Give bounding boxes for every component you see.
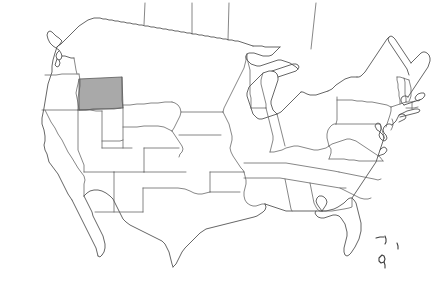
us-outline-map-figure — [0, 0, 441, 298]
us-map-svg — [0, 0, 441, 298]
state-montana-highlighted — [79, 77, 123, 110]
